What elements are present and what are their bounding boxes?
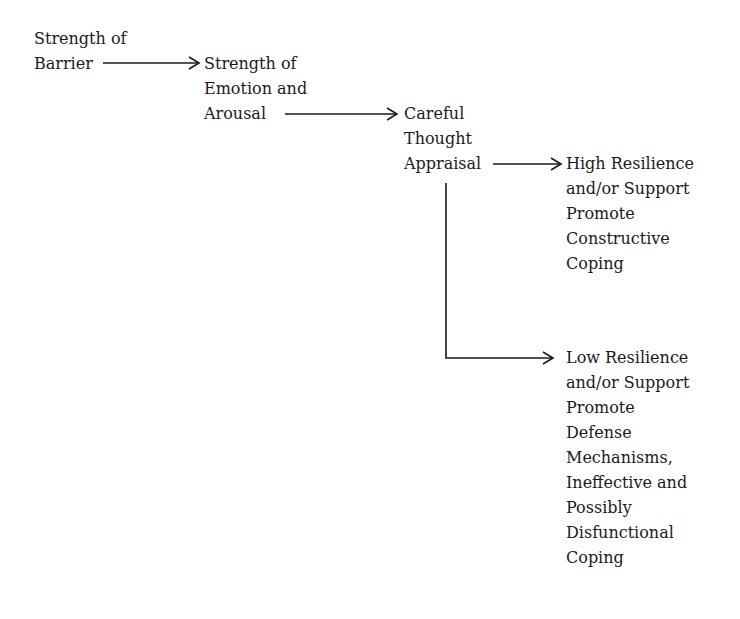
node-strength-of-barrier: Strength of Barrier <box>34 26 126 76</box>
node-line: Promote <box>566 201 694 226</box>
node-line: Constructive <box>566 226 694 251</box>
node-line: Promote <box>566 395 689 420</box>
node-line: Low Resilience <box>566 345 689 370</box>
node-line: Coping <box>566 251 694 276</box>
node-strength-of-emotion: Strength of Emotion and Arousal <box>204 51 307 126</box>
node-line: Barrier <box>34 51 126 76</box>
node-line: Arousal <box>204 101 307 126</box>
node-line: High Resilience <box>566 151 694 176</box>
node-careful-thought-appraisal: Careful Thought Appraisal <box>404 101 481 176</box>
node-line: Appraisal <box>404 151 481 176</box>
node-line: Disfunctional <box>566 520 689 545</box>
node-line: Strength of <box>204 51 307 76</box>
node-line: and/or Support <box>566 176 694 201</box>
node-line: Possibly <box>566 495 689 520</box>
node-line: Careful <box>404 101 481 126</box>
node-line: Thought <box>404 126 481 151</box>
node-line: Emotion and <box>204 76 307 101</box>
arrow-appraisal-to-low <box>446 183 552 358</box>
node-line: Ineffective and <box>566 470 689 495</box>
node-line: Strength of <box>34 26 126 51</box>
node-low-resilience: Low Resilience and/or Support Promote De… <box>566 345 689 570</box>
node-high-resilience: High Resilience and/or Support Promote C… <box>566 151 694 276</box>
node-line: and/or Support <box>566 370 689 395</box>
node-line: Mechanisms, <box>566 445 689 470</box>
node-line: Coping <box>566 545 689 570</box>
node-line: Defense <box>566 420 689 445</box>
